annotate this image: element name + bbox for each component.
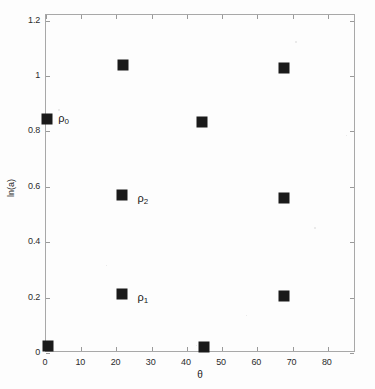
y-axis-tick-label: 1.2: [28, 15, 40, 25]
x-axis-tick-label: 20: [111, 357, 121, 367]
x-axis-tick-top: [152, 15, 153, 19]
x-axis-tick-label: 50: [216, 357, 226, 367]
y-axis-tick-right: [350, 298, 354, 299]
scan-speckle: [295, 41, 297, 43]
data-point-marker: [278, 62, 289, 73]
x-axis-tick-top: [46, 15, 47, 19]
scan-speckle: [246, 315, 247, 316]
x-axis-tick-label: 60: [252, 357, 262, 367]
y-axis-tick: [46, 76, 50, 77]
data-point-marker: [117, 59, 128, 70]
x-axis-title: θ: [197, 369, 203, 380]
x-axis-tick: [328, 347, 329, 351]
x-axis-tick-top: [116, 15, 117, 19]
data-point-marker: [197, 116, 208, 127]
y-axis-tick: [46, 242, 50, 243]
data-point-marker: [117, 190, 128, 201]
y-axis-tick-label: 1: [35, 70, 40, 80]
data-point-marker: [43, 341, 54, 352]
y-axis-tick-right: [350, 187, 354, 188]
data-point-marker: [42, 113, 53, 124]
x-axis-tick-top: [187, 15, 188, 19]
y-axis-tick: [46, 21, 50, 22]
y-axis-tick-label: 0.2: [28, 292, 40, 302]
y-axis-tick-label: 0.8: [28, 125, 40, 135]
scan-speckle: [196, 345, 197, 346]
x-axis-tick-label: 40: [181, 357, 191, 367]
y-axis-tick-label: 0.6: [28, 181, 40, 191]
y-axis-tick-right: [350, 76, 354, 77]
y-axis-tick-right: [350, 21, 354, 22]
annotation-subscript: 0: [65, 117, 69, 126]
x-axis-tick-top: [81, 15, 82, 19]
x-axis-tick: [116, 347, 117, 351]
point-annotation: ρ0: [58, 112, 69, 126]
scan-speckle: [106, 265, 107, 266]
x-axis-tick: [81, 347, 82, 351]
scan-speckle: [58, 109, 60, 111]
annotation-subscript: 2: [144, 197, 148, 206]
x-axis-tick: [187, 347, 188, 351]
y-axis-tick: [46, 131, 50, 132]
point-annotation: ρ2: [138, 192, 149, 206]
y-axis-tick-label: 0: [35, 347, 40, 357]
x-axis-tick-label: 10: [75, 357, 85, 367]
y-axis-tick: [46, 298, 50, 299]
x-axis-tick-top: [222, 15, 223, 19]
x-axis-tick-label: 30: [146, 357, 156, 367]
data-point-marker: [198, 342, 209, 353]
point-annotation: ρ1: [138, 291, 149, 305]
x-axis-tick-top: [328, 15, 329, 19]
x-axis-tick: [152, 347, 153, 351]
scatter-plot-figure: ln(a) θ 00.20.40.60.811.2 01020304050607…: [0, 0, 375, 389]
y-axis-tick-label: 0.4: [28, 236, 40, 246]
y-axis-tick-right: [350, 131, 354, 132]
y-axis-tick: [46, 187, 50, 188]
scan-speckle: [346, 135, 347, 136]
x-axis-tick: [257, 347, 258, 351]
annotation-subscript: 1: [144, 296, 148, 305]
data-point-marker: [278, 192, 289, 203]
x-axis-tick-label: 80: [322, 357, 332, 367]
y-axis-title: ln(a): [6, 179, 16, 197]
data-point-marker: [278, 291, 289, 302]
scan-speckle: [314, 227, 316, 229]
y-axis-tick: [46, 353, 50, 354]
x-axis-tick: [222, 347, 223, 351]
x-axis-tick: [293, 347, 294, 351]
data-point-marker: [117, 288, 128, 299]
plot-area: ρ0ρ2ρ1: [45, 14, 355, 352]
y-axis-tick-right: [350, 353, 354, 354]
x-axis-tick-top: [257, 15, 258, 19]
x-axis-tick-top: [293, 15, 294, 19]
x-axis-tick-label: 0: [43, 357, 48, 367]
x-axis-tick-label: 70: [287, 357, 297, 367]
y-axis-tick-right: [350, 242, 354, 243]
